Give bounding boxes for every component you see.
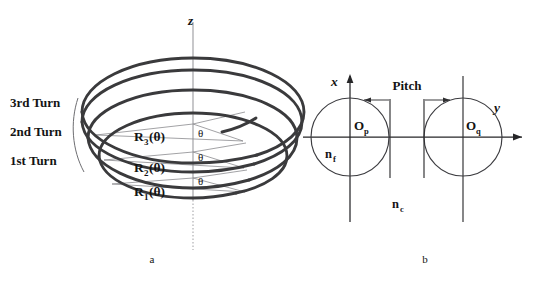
radius-label-r2: R 2 (θ) [134,160,165,178]
radius-label-r3-base: R [134,129,144,144]
radius-label-r1-arg: (θ) [149,184,165,199]
panel-a: 3rd Turn 2nd Turn 1st Turn R 3 (θ) R 2 (… [10,13,304,265]
center-label-oq: O q [466,118,481,136]
turn-label-1st: 1st Turn [10,153,57,168]
y-axis-arrowhead [513,134,522,141]
center-label-op-base: O [354,118,364,133]
radius-label-r1-base: R [134,184,144,199]
index-label-nc-base: n [392,197,399,211]
panel-a-caption: a [150,253,155,265]
pitch-label: Pitch [393,78,423,93]
helix-free-end-tail [222,118,256,132]
panel-b: y x Pitch O [303,74,522,265]
center-label-op-sub: p [364,126,369,136]
figure-root: 3rd Turn 2nd Turn 1st Turn R 3 (θ) R 2 (… [0,0,533,282]
index-label-nf-sub: f [333,154,336,164]
panel-b-caption: b [422,253,428,265]
turn-label-2nd: 2nd Turn [10,124,62,139]
center-label-op: O p [354,118,369,136]
z-axis-label: z [187,13,194,28]
index-label-nf: n f [325,147,336,164]
index-label-nc: n c [392,197,404,214]
radius-label-r2-arg: (θ) [149,160,165,175]
wedge-line-r3-chord [96,135,243,141]
figure-canvas: 3rd Turn 2nd Turn 1st Turn R 3 (θ) R 2 (… [0,0,533,282]
turn-label-3rd: 3rd Turn [10,95,61,110]
index-label-nf-base: n [325,147,332,161]
center-label-oq-base: O [466,118,476,133]
radius-label-r1: R 1 (θ) [134,184,165,202]
index-label-nc-sub: c [400,204,404,214]
angle-label-theta-mid: θ [198,151,203,163]
center-label-oq-sub: q [476,126,481,136]
radius-label-r2-base: R [134,160,144,175]
radius-label-r3-arg: (θ) [149,129,165,144]
x-axis-arrowhead [347,74,354,83]
x-axis-label: x [330,74,338,89]
pitch-dimension-arrows [364,97,450,102]
angle-label-theta-bottom: θ [198,175,203,187]
radius-label-r3: R 3 (θ) [134,129,165,147]
angle-label-theta-top: θ [198,127,203,139]
